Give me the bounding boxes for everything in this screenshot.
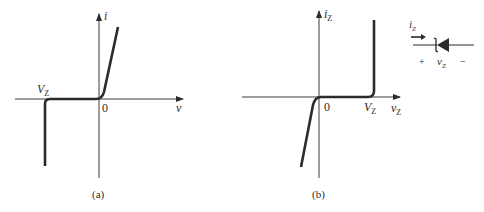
- panel-a-iv-curve: [45, 27, 118, 166]
- panel-b-x-axis-label: vZ: [391, 101, 401, 117]
- panel-a-origin-label: 0: [102, 101, 108, 115]
- panel-a-caption: (a): [92, 188, 105, 201]
- diode-voltage-label: vZ: [437, 55, 446, 70]
- diode-plus-sign: +: [419, 56, 425, 67]
- panel-a: i v 0 VZ (a): [15, 9, 183, 201]
- diode-minus-sign: −: [460, 56, 466, 67]
- panel-a-y-axis-label: i: [104, 9, 107, 23]
- diode-triangle-icon: [437, 38, 449, 52]
- panel-b-breakdown-label: VZ: [364, 100, 376, 116]
- zener-diode-symbol: iZ + vZ −: [409, 18, 474, 70]
- current-arrow-icon: [411, 34, 426, 40]
- panel-a-x-axis-label: v: [176, 101, 182, 115]
- panel-b-origin-label: 0: [324, 100, 330, 114]
- panel-b-y-axis-label: iZ: [324, 7, 332, 23]
- zener-characteristics-figure: i v 0 VZ (a) iZ vZ 0 VZ (b) iZ: [0, 0, 484, 212]
- panel-a-breakdown-label: VZ: [37, 82, 49, 98]
- panel-b-caption: (b): [312, 188, 325, 201]
- panel-b-iv-curve: [301, 20, 374, 167]
- diode-current-label: iZ: [409, 18, 416, 33]
- panel-b: iZ vZ 0 VZ (b): [242, 7, 401, 201]
